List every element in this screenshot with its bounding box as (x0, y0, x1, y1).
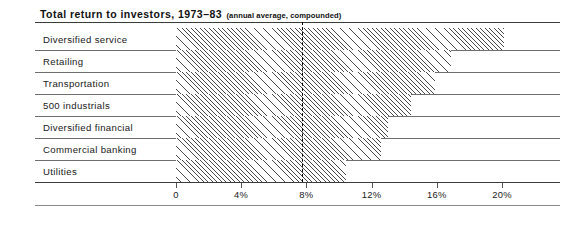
bar-retailing (176, 50, 451, 72)
axis-tick-label: 8% (299, 189, 313, 200)
plot-area: Diversified serviceRetailingTransportati… (35, 22, 560, 215)
chart-row: Diversified service (35, 28, 560, 50)
bar-transportation (176, 72, 435, 94)
category-label: Commercial banking (43, 144, 137, 155)
bar-commercial-banking (176, 138, 381, 160)
plot-bottom-border (35, 205, 560, 206)
chart-row: Diversified financial (35, 116, 560, 138)
category-label: Utilities (43, 166, 77, 177)
category-label: 500 industrials (43, 100, 110, 111)
category-label: Retailing (43, 56, 83, 67)
category-label: Diversified service (43, 34, 128, 45)
chart-row: Commercial banking (35, 138, 560, 160)
chart-row: Retailing (35, 50, 560, 72)
chart-title-main: Total return to investors, 1973–83 (40, 8, 222, 20)
chart-row: Utilities (35, 160, 560, 182)
axis-tick-label: 20% (492, 189, 512, 200)
chart-row: Transportation (35, 72, 560, 94)
chart-figure: Total return to investors, 1973–83 (annu… (0, 0, 574, 226)
bar-diversified-service (176, 28, 504, 50)
chart-title-subtitle: (annual average, compounded) (226, 11, 341, 20)
axis-tick (176, 183, 177, 188)
row-separator (35, 182, 560, 183)
bar-diversified-financial (176, 116, 388, 138)
category-label: Transportation (43, 78, 109, 89)
axis-tick (437, 183, 438, 188)
axis-tick-label: 0 (173, 189, 179, 200)
chart-row: 500 industrials (35, 94, 560, 116)
axis-tick-label: 12% (362, 189, 382, 200)
bar-utilities (176, 160, 346, 182)
axis-tick (306, 183, 307, 188)
chart-title: Total return to investors, 1973–83 (annu… (40, 4, 342, 22)
plot-top-border (35, 22, 560, 23)
axis-tick-label: 16% (427, 189, 447, 200)
bar-500-industrials (176, 94, 411, 116)
category-label: Diversified financial (43, 122, 133, 133)
axis-tick (372, 183, 373, 188)
axis-tick (241, 183, 242, 188)
axis-tick-label: 4% (234, 189, 248, 200)
axis-tick (502, 183, 503, 188)
reference-line (302, 22, 303, 182)
